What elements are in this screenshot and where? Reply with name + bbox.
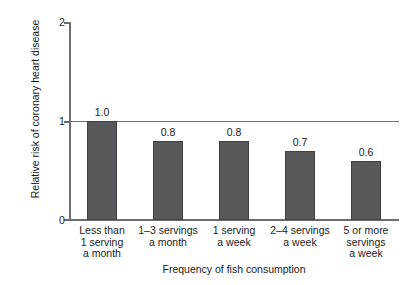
x-category-label-3: 1 servinga week bbox=[201, 225, 267, 248]
x-category-line: a week bbox=[333, 248, 399, 260]
bar-value-label-1: 1.0 bbox=[69, 107, 135, 118]
bar-1 bbox=[87, 22, 117, 220]
x-category-line: a month bbox=[135, 237, 201, 249]
x-category-line: 5 or more bbox=[333, 225, 399, 237]
bar-value-label-5: 0.6 bbox=[333, 147, 399, 158]
x-category-line: 1 serving bbox=[201, 225, 267, 237]
x-category-line: Less than bbox=[69, 225, 135, 237]
x-axis-categories: Less than1 servinga month1–3 servingsa m… bbox=[69, 225, 399, 265]
x-category-line: 1–3 servings bbox=[135, 225, 201, 237]
bar-rect-3 bbox=[219, 141, 249, 220]
bar-5 bbox=[351, 22, 381, 220]
bar-rect-2 bbox=[153, 141, 183, 220]
bar-4 bbox=[285, 22, 315, 220]
bar-value-label-2: 0.8 bbox=[135, 127, 201, 138]
bar-value-label-3: 0.8 bbox=[201, 127, 267, 138]
plot-area: 2 1 0 1.00.80.80.70.6 bbox=[69, 22, 399, 220]
bar-3 bbox=[219, 22, 249, 220]
x-axis-title: Frequency of fish consumption bbox=[69, 263, 399, 275]
x-category-line: a month bbox=[69, 248, 135, 260]
x-category-label-4: 2–4 servingsa week bbox=[267, 225, 333, 248]
x-category-label-1: Less than1 servinga month bbox=[69, 225, 135, 260]
bar-value-label-4: 0.7 bbox=[267, 137, 333, 148]
bar-rect-5 bbox=[351, 161, 381, 220]
bar-2 bbox=[153, 22, 183, 220]
x-category-line: a week bbox=[267, 237, 333, 249]
bar-chart: Relative risk of coronary heart disease … bbox=[0, 0, 413, 285]
x-category-label-5: 5 or moreservingsa week bbox=[333, 225, 399, 260]
bar-rect-1 bbox=[87, 121, 117, 220]
x-category-line: a week bbox=[201, 237, 267, 249]
bar-series: 1.00.80.80.70.6 bbox=[69, 22, 399, 220]
y-axis-title: Relative risk of coronary heart disease bbox=[29, 4, 41, 214]
x-category-label-2: 1–3 servingsa month bbox=[135, 225, 201, 248]
bar-rect-4 bbox=[285, 151, 315, 220]
x-category-line: 2–4 servings bbox=[267, 225, 333, 237]
